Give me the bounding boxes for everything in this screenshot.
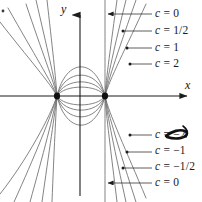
- label-equals: =: [163, 24, 170, 36]
- label-c-neg2-bottom: c = −2: [155, 128, 186, 140]
- label-equals: =: [163, 41, 170, 53]
- right-node-marker: [102, 93, 108, 100]
- label-c-symbol: c: [155, 128, 160, 140]
- left-node-upper-branches: [0, 0, 57, 96]
- label-c-0-top: c = 0: [155, 7, 179, 19]
- label-c-neghalf-bottom: c = −1/2: [155, 160, 195, 172]
- leader-dot-c-1-top: [126, 47, 129, 50]
- inner-arcs-lower: [57, 96, 105, 125]
- label-c-symbol: c: [155, 41, 160, 53]
- label-c-symbol: c: [155, 24, 160, 36]
- leader-dot-c-2-top: [129, 63, 132, 66]
- inner-arcs-upper: [57, 67, 105, 96]
- label-c-value: −1/2: [173, 160, 195, 172]
- leader-dot-c-neghalf-bottom: [122, 167, 125, 170]
- label-equals: =: [163, 144, 170, 156]
- label-c-1-top: c = 1: [155, 41, 179, 53]
- leader-dot-c-half-top: [122, 30, 125, 33]
- label-equals: =: [163, 176, 170, 188]
- math-figure: y x c = 0 c = 1/2 c = 1 c = 2 c = −2 c =…: [0, 0, 202, 202]
- stray-ink-dot: [2, 10, 5, 13]
- label-c-half-top: c = 1/2: [155, 24, 188, 36]
- label-c-value: −1: [173, 144, 186, 156]
- label-equals: =: [163, 160, 170, 172]
- left-node-lower-branches: [0, 96, 57, 202]
- label-c-symbol: c: [155, 160, 160, 172]
- label-c-symbol: c: [155, 144, 160, 156]
- left-node-marker: [54, 93, 60, 100]
- label-c-symbol: c: [155, 176, 160, 188]
- label-equals: =: [163, 57, 170, 69]
- label-equals: =: [163, 128, 170, 140]
- leader-lines-bottom: [108, 134, 152, 184]
- label-c-symbol: c: [155, 57, 160, 69]
- label-c-value: 1: [173, 41, 179, 53]
- label-c-value: 0: [173, 176, 179, 188]
- label-c-value: 1/2: [173, 24, 188, 36]
- label-c-value: 2: [173, 57, 179, 69]
- label-c-neg1-bottom: c = −1: [155, 144, 186, 156]
- label-c-2-top: c = 2: [155, 57, 179, 69]
- label-c-value: 0: [173, 7, 179, 19]
- leader-dot-c-neg1-bottom: [126, 151, 129, 154]
- y-axis-label: y: [61, 2, 66, 17]
- leader-dot-c-neg2-bottom: [129, 134, 132, 137]
- label-c-0-bottom: c = 0: [155, 176, 179, 188]
- leader-lines-top: [108, 14, 152, 66]
- right-node-lower-branches: [105, 96, 146, 202]
- label-c-value: −2: [173, 128, 186, 140]
- label-equals: =: [163, 7, 170, 19]
- x-axis-label: x: [185, 78, 190, 93]
